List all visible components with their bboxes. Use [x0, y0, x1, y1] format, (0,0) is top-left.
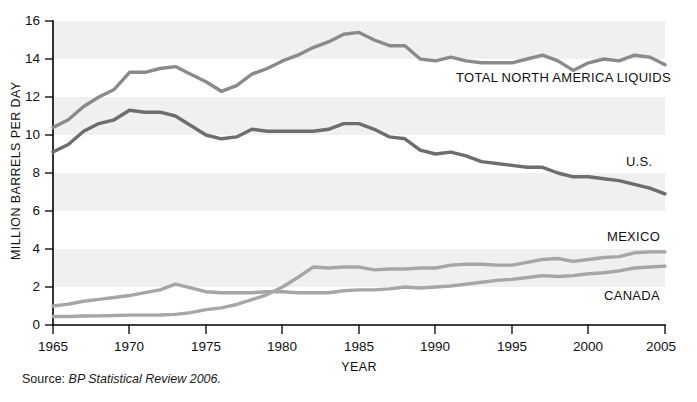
line-chart: 16 14 12 10 8 6 4 2 0 1965 1970 1975 198… [0, 0, 697, 402]
xtick-label: 1985 [344, 339, 374, 354]
ytick-label: 10 [25, 127, 40, 142]
ytick-label: 12 [25, 89, 40, 104]
x-axis-ticks [53, 325, 665, 334]
ytick-label: 4 [32, 241, 40, 256]
xtick-label: 1995 [497, 339, 527, 354]
y-axis-title: MILLION BARRELS PER DAY [9, 81, 23, 260]
xtick-label: 1965 [38, 339, 68, 354]
chart-container: 16 14 12 10 8 6 4 2 0 1965 1970 1975 198… [0, 0, 697, 402]
ytick-label: 6 [32, 203, 40, 218]
xtick-label: 1970 [114, 339, 144, 354]
ytick-label: 0 [32, 317, 40, 332]
series-label-canada: CANADA [604, 288, 660, 303]
band-14-16 [53, 21, 665, 59]
x-axis-title: YEAR [341, 360, 377, 374]
band-6-8 [53, 173, 665, 211]
background-bands [53, 21, 665, 287]
series-label-u-s: U.S. [626, 154, 652, 169]
xtick-label: 1990 [420, 339, 450, 354]
ytick-label: 16 [25, 13, 40, 28]
y-axis-tick-labels: 16 14 12 10 8 6 4 2 0 [25, 13, 41, 332]
ytick-label: 8 [32, 165, 40, 180]
source-prefix: Source: [22, 372, 65, 386]
xtick-label: 2005 [646, 339, 676, 354]
series-label-mexico: MEXICO [607, 229, 660, 244]
y-axis-ticks [45, 21, 53, 325]
x-axis-tick-labels: 1965 1970 1975 1980 1985 1990 1995 2000 … [38, 339, 676, 354]
xtick-label: 2000 [573, 339, 603, 354]
source-reference: BP Statistical Review 2006. [69, 372, 221, 386]
xtick-label: 1980 [267, 339, 297, 354]
source-note: Source: BP Statistical Review 2006. [22, 372, 221, 386]
ytick-label: 14 [25, 51, 41, 66]
series-label-total-north-america-liquids: TOTAL NORTH AMERICA LIQUIDS [456, 70, 671, 85]
band-10-12 [53, 97, 665, 135]
xtick-label: 1975 [191, 339, 221, 354]
ytick-label: 2 [32, 279, 40, 294]
